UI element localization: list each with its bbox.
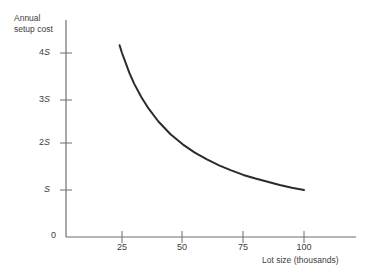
chart-figure: Annual setup cost Lot size (thousands) 0…: [0, 0, 371, 278]
chart-canvas: [0, 0, 371, 278]
setup-cost-curve: [120, 45, 304, 190]
